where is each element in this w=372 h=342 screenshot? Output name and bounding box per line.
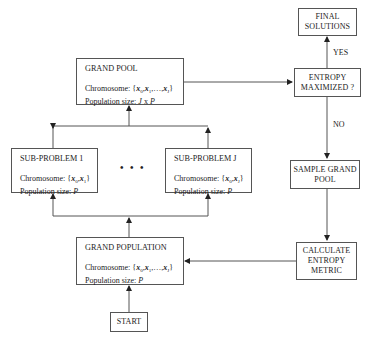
sub-problem-1-chromosome: Chromosome: {x0,x1} xyxy=(20,174,97,187)
yes-label: YES xyxy=(333,48,348,57)
sample-grand-pool-line2: POOL xyxy=(314,175,335,185)
sub-problem-j-chromosome: Chromosome: {x0,xJ} xyxy=(174,174,251,187)
sub-problem-1-title: SUB-PROBLEM 1 xyxy=(20,154,97,164)
sub-problem-1-population: Population size: P xyxy=(20,187,97,197)
grand-population-title: GRAND POPULATION xyxy=(85,243,183,253)
final-solutions-line1: FINAL xyxy=(315,12,339,22)
calculate-entropy-line3: METRIC xyxy=(311,266,342,276)
grand-population-population: Population size: P xyxy=(85,276,183,286)
entropy-maximized-line1: ENTROPY xyxy=(309,73,347,83)
grand-population-chromosome: Chromosome: {x0,x1,…,xJ} xyxy=(85,263,183,276)
sub-problem-j-population: Population size: P xyxy=(174,187,251,197)
sample-grand-pool-node: SAMPLE GRAND POOL xyxy=(290,160,360,189)
no-label: NO xyxy=(333,120,345,129)
final-solutions-node: FINAL SOLUTIONS xyxy=(298,8,357,36)
sub-problem-j-node: SUB-PROBLEM J Chromosome: {x0,xJ} Popula… xyxy=(165,148,252,193)
calculate-entropy-line1: CALCULATE xyxy=(303,246,351,256)
sub-problem-j-title: SUB-PROBLEM J xyxy=(174,154,251,164)
calculate-entropy-line2: ENTROPY xyxy=(308,256,346,266)
grand-pool-title: GRAND POOL xyxy=(85,64,183,74)
final-solutions-line2: SOLUTIONS xyxy=(305,22,350,32)
calculate-entropy-node: CALCULATE ENTROPY METRIC xyxy=(296,242,357,280)
grand-pool-population: Population size: J x P xyxy=(85,97,183,107)
sample-grand-pool-line1: SAMPLE GRAND xyxy=(293,165,356,175)
grand-pool-node: GRAND POOL Chromosome: {x0,x1,…,xJ} Popu… xyxy=(76,58,184,105)
entropy-maximized-line2: MAXIMIZED ? xyxy=(301,83,354,93)
entropy-maximized-node: ENTROPY MAXIMIZED ? xyxy=(294,68,361,97)
start-node: START xyxy=(110,312,148,332)
grand-pool-chromosome: Chromosome: {x0,x1,…,xJ} xyxy=(85,84,183,97)
grand-population-node: GRAND POPULATION Chromosome: {x0,x1,…,xJ… xyxy=(76,237,184,285)
sub-problem-1-node: SUB-PROBLEM 1 Chromosome: {x0,x1} Popula… xyxy=(11,148,98,193)
ellipsis: • • • xyxy=(120,162,146,173)
start-label: START xyxy=(117,317,142,327)
